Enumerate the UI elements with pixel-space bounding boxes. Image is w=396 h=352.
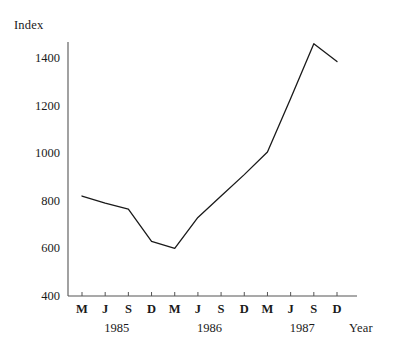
x-axis-ticks (82, 292, 337, 296)
index-series-line (82, 44, 337, 249)
plot-area (0, 0, 396, 352)
axes (68, 42, 357, 296)
chart-figure: Index Year 400600800100012001400 MJSDMJS… (0, 0, 396, 352)
